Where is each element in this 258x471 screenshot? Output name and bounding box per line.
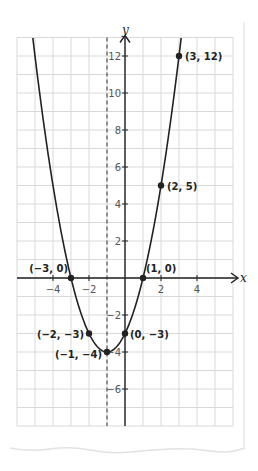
x-axis-label: x xyxy=(240,271,247,285)
parabola-chart: −4−22412108642−2−4−6 (−3, 0)(1, 0)(−2, −… xyxy=(0,0,258,471)
point-marker-icon xyxy=(140,275,146,281)
y-tick-label: 2 xyxy=(115,236,121,247)
point-marker-icon xyxy=(158,182,164,188)
x-tick-label: −2 xyxy=(82,284,97,295)
point-marker-icon xyxy=(122,330,128,336)
y-axis-label: y xyxy=(121,23,129,37)
labeled-points: (−3, 0)(1, 0)(−2, −3)(0, −3)(−1, −4)(2, … xyxy=(29,51,222,360)
point-label: (−1, −4) xyxy=(55,349,102,360)
data-point: (−1, −4) xyxy=(55,349,110,360)
data-point: (−2, −3) xyxy=(37,329,92,340)
point-marker-icon xyxy=(68,275,74,281)
x-tick-label: −4 xyxy=(46,284,61,295)
point-label: (3, 12) xyxy=(185,51,222,62)
point-label: (−2, −3) xyxy=(37,329,84,340)
y-tick-label: 12 xyxy=(108,51,121,62)
paper-edge xyxy=(10,22,244,453)
y-tick-label: 4 xyxy=(115,199,121,210)
x-tick-label: 4 xyxy=(194,284,200,295)
y-tick-label: −6 xyxy=(106,384,121,395)
point-label: (−3, 0) xyxy=(29,263,68,274)
point-marker-icon xyxy=(86,330,92,336)
point-label: (1, 0) xyxy=(146,263,176,274)
y-tick-label: −2 xyxy=(106,310,121,321)
point-marker-icon xyxy=(104,349,110,355)
data-point: (2, 5) xyxy=(158,181,198,192)
y-tick-label: 10 xyxy=(108,88,121,99)
x-tick-label: 2 xyxy=(158,284,164,295)
point-marker-icon xyxy=(176,53,182,59)
point-label: (2, 5) xyxy=(167,181,197,192)
y-tick-label: 6 xyxy=(115,162,121,173)
axes xyxy=(17,36,238,427)
graph-paper: −4−22412108642−2−4−6 (−3, 0)(1, 0)(−2, −… xyxy=(0,0,258,471)
point-label: (0, −3) xyxy=(130,329,169,340)
y-tick-label: 8 xyxy=(115,125,121,136)
